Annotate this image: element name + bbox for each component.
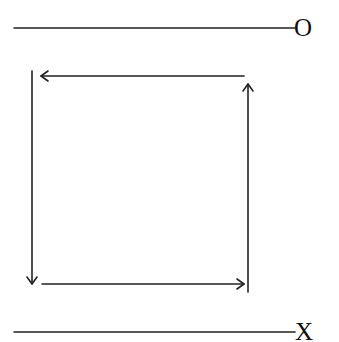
arrow-left-icon xyxy=(41,71,244,81)
arrow-up-icon xyxy=(243,84,253,292)
arrow-down-icon xyxy=(27,71,37,284)
top-line-label: O xyxy=(294,15,312,40)
bottom-line-label: X xyxy=(295,319,313,342)
cycle-diagram xyxy=(0,0,339,342)
arrow-right-icon xyxy=(42,279,244,289)
